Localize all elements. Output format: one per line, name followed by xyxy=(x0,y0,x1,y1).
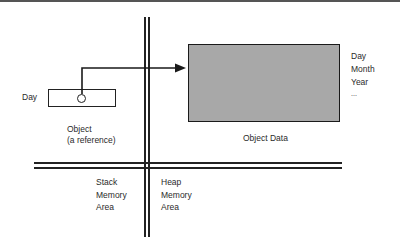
stack-label-line: Area xyxy=(96,201,127,214)
reference-caption-line1: Object xyxy=(67,124,116,135)
heap-memory-area-label: Heap Memory Area xyxy=(161,176,192,214)
memory-divider-top xyxy=(34,162,342,164)
object-data-box xyxy=(188,44,340,122)
memory-divider-bottom xyxy=(34,167,342,169)
stack-label-line: Memory xyxy=(96,189,127,202)
reference-caption: Object (a reference) xyxy=(67,124,116,146)
reference-arrow-icon xyxy=(0,0,400,246)
reference-pointer-icon xyxy=(77,94,86,103)
stack-heap-divider-right xyxy=(148,17,150,237)
object-field: Day xyxy=(351,50,375,63)
top-border xyxy=(0,0,400,2)
object-field: ... xyxy=(351,89,375,99)
heap-label-line: Memory xyxy=(161,189,192,202)
heap-label-line: Area xyxy=(161,201,192,214)
heap-label-line: Heap xyxy=(161,176,192,189)
stack-heap-divider-left xyxy=(144,17,146,237)
stack-memory-area-label: Stack Memory Area xyxy=(96,176,127,214)
reference-variable-label: Day xyxy=(22,92,37,103)
object-field: Year xyxy=(351,76,375,89)
object-field: Month xyxy=(351,63,375,76)
object-fields-list: Day Month Year ... xyxy=(351,50,375,99)
stack-label-line: Stack xyxy=(96,176,127,189)
reference-caption-line2: (a reference) xyxy=(67,135,116,146)
object-data-caption: Object Data xyxy=(243,133,288,144)
